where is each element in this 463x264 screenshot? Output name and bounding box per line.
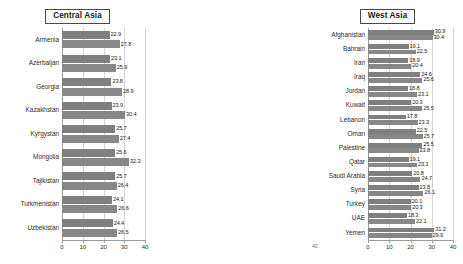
bar-series-1[interactable] (62, 102, 112, 110)
bar-series-1[interactable] (368, 199, 411, 204)
bar-series-1[interactable] (368, 58, 408, 63)
bar-series-2[interactable] (368, 163, 417, 168)
bar-row[interactable]: Iraq24.625.6 (310, 70, 463, 84)
bar-series-1[interactable] (62, 78, 111, 86)
bar-series-2[interactable] (368, 134, 423, 139)
bar-series-1[interactable] (368, 157, 409, 162)
bar-series-2[interactable] (368, 35, 433, 40)
bar-series-1[interactable] (368, 185, 419, 190)
bar-row[interactable]: Saudi Arabia20.824.7 (310, 169, 463, 183)
bar-row[interactable]: Oman22.525.7 (310, 127, 463, 141)
bar-group: 17.823.3 (368, 113, 463, 127)
bar-row[interactable]: Bahrain19.122.5 (310, 42, 463, 56)
bar-series-2[interactable] (368, 92, 417, 97)
bar-value-label: 26.5 (117, 230, 129, 236)
bar-row[interactable]: Turkmenistan24.126.6 (0, 193, 155, 217)
bar-series-1[interactable] (62, 196, 112, 204)
bar-value-label: 20.4 (411, 63, 423, 69)
x-tick-label: 20 (100, 244, 107, 250)
bar-series-1[interactable] (368, 228, 434, 233)
bar-series-2[interactable] (368, 64, 411, 69)
bar-series-1[interactable] (62, 31, 110, 39)
bar-row[interactable]: Georgia23.828.9 (0, 75, 155, 99)
bar-series-2[interactable] (368, 120, 418, 125)
bar-series-1[interactable] (368, 213, 407, 218)
bar-row[interactable]: Qatar19.123.1 (310, 155, 463, 169)
bar-series-1[interactable] (62, 125, 115, 133)
bar-group: 25.523.8 (368, 141, 463, 155)
bar-series-2[interactable] (62, 64, 116, 72)
bar-series-1[interactable] (62, 219, 113, 227)
x-tick-label: 20 (407, 244, 414, 250)
bar-series-2[interactable] (62, 182, 117, 190)
bar-group: 23.125.9 (62, 52, 155, 76)
bar-row[interactable]: Tajikistan25.726.4 (0, 169, 155, 193)
bar-row[interactable]: Mongolia25.632.3 (0, 146, 155, 170)
category-label: Afghanistan (310, 32, 368, 38)
bar-series-2[interactable] (62, 135, 119, 143)
bar-series-2[interactable] (368, 233, 432, 238)
category-label: Saudi Arabia (310, 173, 368, 179)
bar-series-1[interactable] (368, 129, 416, 134)
bar-row[interactable]: Kyrgystan25.727.4 (0, 122, 155, 146)
category-label: Syria (310, 187, 368, 193)
bar-value-label: 23.8 (419, 148, 431, 154)
bar-group: 24.426.5 (62, 216, 155, 240)
bar-row[interactable]: Lebanon17.823.3 (310, 113, 463, 127)
bar-series-1[interactable] (62, 55, 110, 63)
bar-series-2[interactable] (62, 158, 129, 166)
bar-series-1[interactable] (368, 171, 412, 176)
bar-row[interactable]: Armenia22.927.8 (0, 28, 155, 52)
bar-series-1[interactable] (368, 30, 434, 35)
bar-value-label: 22.1 (415, 219, 427, 225)
bar-series-1[interactable] (368, 115, 406, 120)
bar-value-label: 27.8 (120, 42, 132, 48)
bar-series-2[interactable] (368, 106, 422, 111)
category-label: Iraq (310, 74, 368, 80)
bar-series-2[interactable] (368, 191, 423, 196)
bar-series-2[interactable] (368, 148, 419, 153)
bar-row[interactable]: Iran18.920.4 (310, 56, 463, 70)
bar-row[interactable]: Jordan18.823.1 (310, 85, 463, 99)
bar-value-label: 25.6 (422, 77, 434, 83)
bar-series-1[interactable] (368, 72, 420, 77)
bar-series-2[interactable] (368, 219, 415, 224)
x-tick-10 (389, 240, 390, 243)
bar-row[interactable]: Kazakhstan23.930.4 (0, 99, 155, 123)
bar-row[interactable]: Kuwait20.325.5 (310, 99, 463, 113)
bar-row[interactable]: Palestine25.523.8 (310, 141, 463, 155)
bar-series-2[interactable] (368, 177, 420, 182)
bar-value-label: 29.9 (432, 233, 444, 239)
bar-series-2[interactable] (368, 78, 422, 83)
bar-row[interactable]: Yemen31.229.9 (310, 226, 463, 240)
bar-series-2[interactable] (62, 229, 117, 237)
bar-series-2[interactable] (62, 40, 120, 48)
bar-series-1[interactable] (368, 44, 409, 49)
bar-series-1[interactable] (368, 86, 408, 91)
bar-row[interactable]: Syria23.826.1 (310, 183, 463, 197)
bar-value-label: 17.8 (406, 114, 418, 120)
bar-row[interactable]: Uzbekistan24.426.5 (0, 216, 155, 240)
category-label: Jordan (310, 88, 368, 94)
bar-value-label: 23.1 (417, 162, 429, 168)
bar-series-2[interactable] (62, 88, 122, 96)
plot-area-central-asia: Armenia22.927.8Azerbaijan23.125.9Georgia… (0, 0, 155, 264)
category-label: Iran (310, 60, 368, 66)
bar-row[interactable]: Afghanistan30.930.4 (310, 28, 463, 42)
bar-series-1[interactable] (368, 143, 422, 148)
bar-series-1[interactable] (62, 172, 115, 180)
bar-series-2[interactable] (368, 205, 411, 210)
category-label: Palestine (310, 145, 368, 151)
bar-series-2[interactable] (62, 111, 125, 119)
category-label: Turkmenistan (0, 201, 62, 207)
bar-value-label: 25.7 (115, 174, 127, 180)
bar-series-1[interactable] (368, 100, 411, 105)
bar-series-1[interactable] (62, 149, 115, 157)
bar-row[interactable]: Azerbaijan23.125.9 (0, 52, 155, 76)
bar-series-2[interactable] (62, 205, 117, 213)
bar-value-label: 27.4 (119, 136, 131, 142)
bar-row[interactable]: Turkey20.120.3 (310, 198, 463, 212)
x-axis-ticks: 010203040 (368, 240, 453, 254)
bar-row[interactable]: UAE18.322.1 (310, 212, 463, 226)
bar-series-2[interactable] (368, 50, 416, 55)
